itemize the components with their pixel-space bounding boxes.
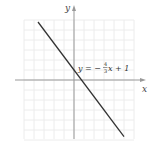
- equation-rhs: x + 1: [108, 64, 129, 73]
- equation-denominator: 3: [104, 68, 107, 74]
- equation-numerator: 4: [104, 61, 107, 67]
- equation-lhs: y = −: [77, 64, 101, 73]
- equation-annotation: y = − 4 3 x + 1: [77, 61, 129, 74]
- graph: x y y = − 4 3 x + 1: [0, 0, 154, 149]
- y-axis-arrow-icon: [72, 5, 76, 11]
- series-line: [38, 22, 124, 137]
- y-axis-label: y: [64, 3, 71, 13]
- x-axis-arrow-icon: [140, 78, 146, 82]
- x-axis-label: x: [142, 84, 147, 94]
